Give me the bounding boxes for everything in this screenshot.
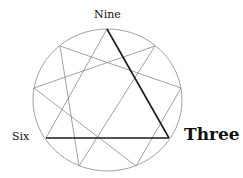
outer-circle: [33, 29, 182, 171]
label-six: Six: [12, 130, 29, 143]
hexad-lines: [34, 29, 181, 166]
enneagram-figure: [0, 0, 243, 178]
enneagram-diagram: Nine Six Three: [0, 0, 243, 178]
label-three: Three: [184, 124, 240, 144]
label-nine: Nine: [94, 8, 121, 21]
